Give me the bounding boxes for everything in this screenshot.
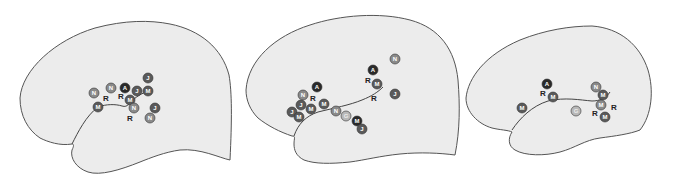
marker-label: R (127, 114, 133, 123)
marker-m: M (306, 104, 316, 114)
marker-n: N (331, 106, 341, 116)
marker-label: M (603, 114, 608, 120)
marker-label: N (594, 84, 598, 90)
marker-label: M (96, 104, 101, 110)
marker-j: J (357, 124, 367, 134)
marker-n: N (129, 103, 139, 113)
marker-r: R (371, 94, 377, 103)
marker-label: J (153, 105, 156, 111)
marker-label: J (135, 88, 138, 94)
marker-label: N (132, 105, 136, 111)
diagram-stage: NRNARJMJMNMRJNANRJMMJMNGMJARMNRJARMMGNMM… (0, 0, 692, 179)
marker-label: J (299, 102, 302, 108)
marker-label: R (371, 94, 377, 103)
marker-label: M (309, 106, 314, 112)
marker-label: R (365, 76, 371, 85)
marker-j: J (296, 100, 306, 110)
marker-r: R (310, 94, 316, 103)
marker-label: N (393, 56, 397, 62)
marker-m: M (294, 112, 304, 122)
marker-label: N (301, 92, 305, 98)
marker-r: R (365, 76, 371, 85)
marker-n: N (145, 113, 155, 123)
marker-label: M (128, 97, 133, 103)
marker-a: A (368, 65, 378, 75)
marker-label: M (297, 114, 302, 120)
marker-m: M (600, 112, 610, 122)
marker-r: R (118, 92, 124, 101)
marker-label: A (123, 85, 128, 91)
marker-n: N (390, 54, 400, 64)
marker-g: G (341, 111, 351, 121)
marker-m: M (319, 99, 329, 109)
marker-label: M (599, 102, 604, 108)
marker-label: R (103, 94, 109, 103)
marker-m: M (517, 103, 527, 113)
marker-label: M (355, 118, 360, 124)
marker-label: N (109, 85, 113, 91)
marker-r: R (611, 103, 617, 112)
marker-label: N (334, 108, 338, 114)
marker-j: J (143, 73, 153, 83)
marker-label: M (375, 81, 380, 87)
marker-label: R (540, 89, 546, 98)
marker-label: J (360, 126, 363, 132)
marker-label: G (344, 113, 349, 119)
marker-label: R (118, 92, 124, 101)
marker-label: N (148, 115, 152, 121)
marker-label: J (290, 109, 293, 115)
brain-3-outline (466, 26, 651, 155)
marker-n: N (89, 88, 99, 98)
marker-j: J (390, 89, 400, 99)
marker-a: A (542, 79, 552, 89)
marker-label: A (315, 84, 320, 90)
marker-m: M (143, 86, 153, 96)
marker-m: M (372, 79, 382, 89)
brain-diagram: NRNARJMJMNMRJNANRJMMJMNGMJARMNRJARMMGNMM… (0, 0, 692, 179)
marker-label: J (146, 75, 149, 81)
brain-2-outline (246, 15, 459, 163)
marker-label: R (592, 109, 598, 118)
marker-label: M (601, 92, 606, 98)
marker-n: N (298, 90, 308, 100)
marker-label: R (310, 94, 316, 103)
marker-m: M (548, 92, 558, 102)
marker-label: A (371, 67, 376, 73)
marker-label: G (574, 108, 579, 114)
marker-r: R (103, 94, 109, 103)
marker-j: J (132, 86, 142, 96)
marker-label: M (520, 105, 525, 111)
marker-r: R (127, 114, 133, 123)
marker-label: R (611, 103, 617, 112)
marker-label: M (322, 101, 327, 107)
brain-3 (466, 26, 651, 155)
marker-r: R (592, 109, 598, 118)
marker-n: N (106, 83, 116, 93)
marker-m: M (598, 90, 608, 100)
marker-g: G (571, 106, 581, 116)
marker-label: M (146, 88, 151, 94)
marker-label: A (545, 81, 550, 87)
marker-n: N (591, 82, 601, 92)
marker-label: N (92, 90, 96, 96)
brain-2 (246, 15, 459, 163)
marker-j: J (150, 103, 160, 113)
marker-label: M (551, 94, 556, 100)
marker-label: J (393, 91, 396, 97)
marker-m: M (93, 102, 103, 112)
marker-r: R (540, 89, 546, 98)
marker-a: A (312, 82, 322, 92)
